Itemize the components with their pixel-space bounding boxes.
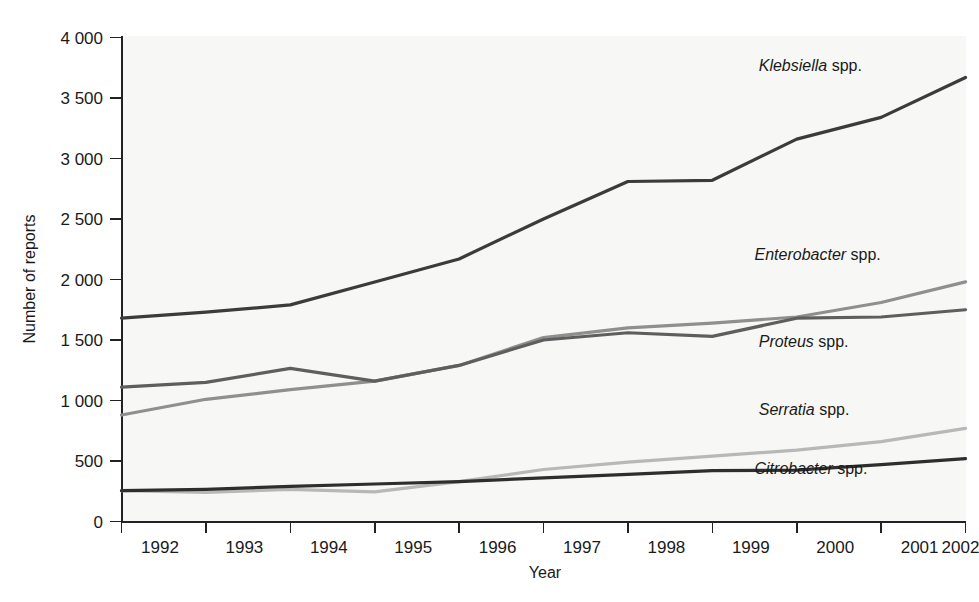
y-tick-label: 2 500 bbox=[60, 210, 103, 229]
series-genus-name: Serratia bbox=[759, 401, 815, 418]
y-tick-label: 1 000 bbox=[60, 392, 103, 411]
y-tick-label: 500 bbox=[75, 452, 103, 471]
y-tick-label: 1 500 bbox=[60, 331, 103, 350]
x-tick-label: 2002 bbox=[942, 538, 979, 557]
x-tick-label: 1992 bbox=[141, 538, 179, 557]
x-tick-label: 1999 bbox=[732, 538, 770, 557]
series-genus-name: Klebsiella bbox=[759, 57, 828, 74]
series-label-klebsiella: Klebsiella spp. bbox=[759, 57, 862, 74]
x-tick-label: 1993 bbox=[225, 538, 263, 557]
y-tick-label: 3 000 bbox=[60, 150, 103, 169]
y-tick-label: 4 000 bbox=[60, 29, 103, 48]
chart-figure: 05001 0001 5002 0002 5003 0003 5004 000 … bbox=[0, 0, 979, 602]
y-tick-label: 2 000 bbox=[60, 271, 103, 290]
series-rank-suffix: spp. bbox=[827, 57, 862, 74]
x-tick-label: 2001 bbox=[901, 538, 939, 557]
series-label-serratia: Serratia spp. bbox=[759, 401, 850, 418]
series-rank-suffix: spp. bbox=[833, 460, 868, 477]
series-genus-name: Proteus bbox=[759, 333, 814, 350]
series-rank-suffix: spp. bbox=[815, 401, 850, 418]
series-genus-name: Citrobacter bbox=[755, 460, 834, 477]
series-label-citrobacter: Citrobacter spp. bbox=[755, 460, 868, 477]
plot-area-background bbox=[122, 36, 966, 522]
x-tick-label: 1997 bbox=[563, 538, 601, 557]
x-tick-label: 1994 bbox=[310, 538, 348, 557]
series-label-proteus: Proteus spp. bbox=[759, 333, 849, 350]
x-axis-title: Year bbox=[529, 564, 562, 581]
line-chart-canvas: 05001 0001 5002 0002 5003 0003 5004 000 … bbox=[0, 0, 979, 602]
series-rank-suffix: spp. bbox=[814, 333, 849, 350]
x-tick-label: 1996 bbox=[479, 538, 517, 557]
series-label-enterobacter: Enterobacter spp. bbox=[755, 246, 881, 263]
x-tick-label: 1998 bbox=[647, 538, 685, 557]
series-genus-name: Enterobacter bbox=[755, 246, 847, 263]
x-tick-label: 1995 bbox=[394, 538, 432, 557]
y-axis-title: Number of reports bbox=[21, 215, 38, 344]
y-tick-label: 0 bbox=[94, 513, 103, 532]
series-rank-suffix: spp. bbox=[846, 246, 881, 263]
x-tick-label: 2000 bbox=[816, 538, 854, 557]
y-tick-label: 3 500 bbox=[60, 89, 103, 108]
